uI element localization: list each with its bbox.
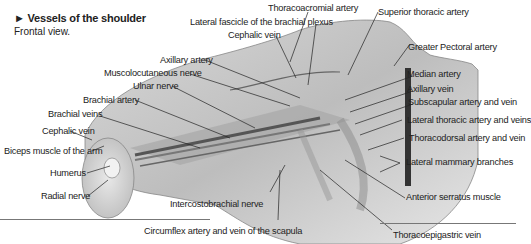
- diagram-subtitle: Frontal view.: [14, 26, 70, 37]
- label-anterior-serratus: Anterior serratus muscle: [406, 192, 501, 202]
- label-circumflex: Circumflex artery and vein of the scapul…: [144, 226, 302, 236]
- label-thoracoacromial-artery: Thoracoacromial artery: [268, 3, 358, 13]
- label-biceps-muscle: Biceps muscle of the arm: [4, 146, 102, 156]
- label-radial-nerve: Radial nerve: [41, 191, 90, 201]
- label-lateral-thoracic: Lateral thoracic artery and veins: [407, 115, 531, 125]
- label-thoracoepigastric-vein: Thoracoepigastric vein: [393, 230, 481, 240]
- label-brachial-artery: Brachial artery: [83, 95, 139, 105]
- label-intercostobrachial-nerve: Intercostobrachial nerve: [170, 199, 263, 209]
- label-lateral-mammary: Lateral mammary branches: [406, 157, 513, 167]
- label-superior-thoracic-artery: Superior thoracic artery: [378, 7, 469, 17]
- diagram-title: ► Vessels of the shoulder: [14, 12, 146, 24]
- label-cephalic-vein-left: Cephalic vein: [42, 126, 95, 136]
- label-thoracodorsal: Thoracodorsal artery and vein: [409, 133, 525, 143]
- label-brachial-veins: Brachial veins: [48, 109, 102, 119]
- label-ulnar-nerve: Ulnar nerve: [133, 81, 178, 91]
- label-axillary-artery: Axillary artery: [160, 55, 213, 65]
- label-greater-pectoral-artery: Greater Pectoral artery: [408, 42, 497, 52]
- label-cephalic-vein-top: Cephalic vein: [228, 30, 281, 40]
- label-musculocutaneous-nerve: Muscolocutaneous nerve: [104, 68, 202, 78]
- label-humerus: Humerus: [50, 168, 86, 178]
- label-lateral-fascicle: Lateral fascicle of the brachial plexus: [190, 17, 333, 27]
- label-subscapular: Subscapular artery and vein: [408, 97, 517, 107]
- divider-right: [380, 223, 516, 224]
- divider-left: [0, 219, 210, 220]
- label-axillary-vein: Axillary vein: [407, 84, 453, 94]
- label-median-artery: Median artery: [407, 69, 461, 79]
